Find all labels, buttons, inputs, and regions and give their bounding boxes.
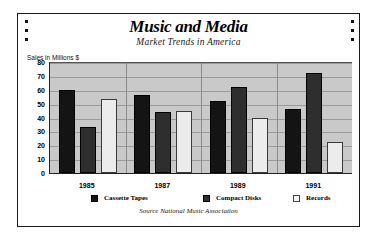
bar-cd-1985 [80,127,96,173]
legend-swatch-icon [293,195,300,202]
y-axis-tick-label: 80 [37,59,45,66]
chart-subtitle: Market Trends in America [18,36,359,48]
y-axis-tick-label: 10 [37,156,45,163]
bar-cd-1989 [231,87,247,173]
y-axis-tick-label: 0 [41,170,45,177]
bar-records-1987 [176,111,192,173]
bar-group [277,63,353,173]
y-axis-title: Sales in Millions $ [27,54,79,61]
bar-records-1985 [101,99,117,173]
decorative-dot [25,38,28,41]
title-block: Music and Media Market Trends in America [18,18,359,48]
legend-item-cassette[interactable]: Cassette Tapes [91,194,148,202]
plot-area [49,62,352,174]
legend-item-records[interactable]: Records [293,194,331,202]
page-title: Music and Media [18,18,359,36]
decorative-dot [25,29,28,32]
bar-records-1989 [252,118,268,174]
bar-cassette-1991 [285,109,301,173]
x-axis-tick-label: 1989 [200,182,276,189]
legend-label: Records [306,194,331,202]
y-axis-tick-label: 20 [37,142,45,149]
y-axis-tick-label: 50 [37,100,45,107]
bar-group [201,63,277,173]
y-axis-tick-label: 70 [37,72,45,79]
y-axis-tick-label: 30 [37,128,45,135]
bar-records-1991 [327,142,343,173]
legend-swatch-icon [91,195,98,202]
decorative-dot [351,20,354,23]
bar-group [126,63,202,173]
chart-frame: Music and Media Market Trends in America… [17,13,360,227]
decorative-dot [25,20,28,23]
y-axis-tick-label: 40 [37,114,45,121]
bar-group [50,63,126,173]
y-axis-ticks: 80706050403020100 [27,62,47,174]
bar-cassette-1987 [134,95,150,173]
legend-swatch-icon [203,195,210,202]
chart-legend: Cassette TapesCompact DisksRecords [18,194,359,206]
bar-cassette-1985 [59,90,75,173]
legend-item-cd[interactable]: Compact Disks [203,194,261,202]
x-axis-tick-label: 1991 [276,182,352,189]
bar-cd-1991 [306,73,322,173]
decorative-dot [351,38,354,41]
bar-cassette-1989 [210,101,226,173]
bar-cd-1987 [155,112,171,173]
decorative-dot [351,29,354,32]
plot-wrapper: 80706050403020100 [27,62,352,180]
y-axis-tick-label: 60 [37,86,45,93]
legend-label: Compact Disks [216,194,261,202]
source-note: Source National Music Association [18,207,359,215]
x-axis-tick-label: 1987 [125,182,201,189]
x-axis-ticks: 1985198719891991 [49,182,365,194]
x-axis-tick-label: 1985 [49,182,125,189]
legend-label: Cassette Tapes [104,194,148,202]
